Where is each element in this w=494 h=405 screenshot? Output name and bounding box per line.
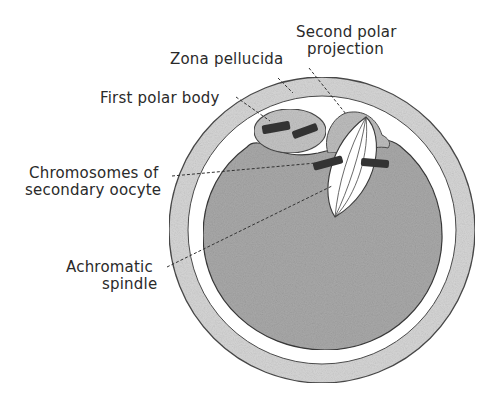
label-zona-pellucida: Zona pellucida [170, 50, 283, 68]
label-second-polar-projection-line2: projection [307, 40, 384, 58]
label-achromatic-spindle-line1: Achromatic [66, 258, 153, 276]
oocyte-diagram: Second polar projection Zona pellucida F… [0, 0, 494, 405]
label-achromatic-spindle-line2: spindle [102, 275, 157, 293]
label-first-polar-body: First polar body [100, 89, 220, 107]
label-second-polar-projection-line1: Second polar [296, 23, 397, 41]
label-chromosomes-line1: Chromosomes of [29, 164, 159, 182]
label-chromosomes-line2: secondary oocyte [25, 181, 161, 199]
